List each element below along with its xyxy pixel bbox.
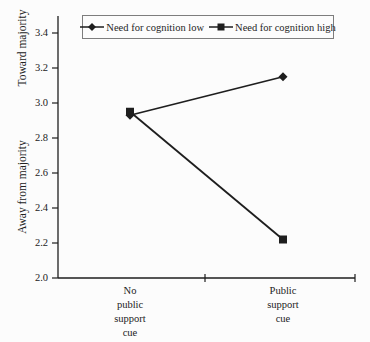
series-1-point-1 [279, 236, 287, 244]
diamond-marker-icon [80, 21, 104, 33]
series-0-point-1 [279, 72, 288, 81]
legend-marker [218, 24, 225, 31]
chart-figure: Toward majority Away from majority 3.4 3… [0, 0, 370, 342]
legend-label: Need for cognition low [106, 22, 204, 33]
legend-item-need-for-cognition-high: Need for cognition high [209, 21, 336, 33]
series-line-0 [130, 77, 283, 116]
x-category-label-public-support-cue: Public support cue [223, 284, 343, 326]
square-marker-icon [209, 21, 233, 33]
series-line-1 [130, 112, 283, 240]
series-1-point-0 [126, 108, 134, 116]
legend-marker [88, 23, 96, 31]
legend-item-need-for-cognition-low: Need for cognition low [80, 21, 204, 33]
chart-legend: Need for cognition low Need for cognitio… [82, 15, 334, 39]
legend-label: Need for cognition high [235, 22, 336, 33]
x-category-label-no-public-support-cue: No public support cue [70, 284, 190, 340]
